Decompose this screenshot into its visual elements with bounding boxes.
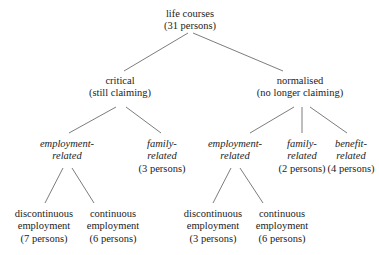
node-count: (3 persons) — [139, 163, 186, 175]
node-normalised-employment-related: employment- related — [208, 138, 262, 163]
root-node-life-courses: life courses (31 persons) — [164, 8, 216, 33]
edge-critical-to-crit-employment — [69, 107, 116, 133]
leaf-label-line2: employment — [15, 220, 73, 232]
node-critical-family-related: family- related (3 persons) — [139, 138, 186, 175]
node-label-line1: employment- — [40, 138, 94, 150]
leaf-count: (6 persons) — [256, 233, 309, 245]
node-critical-label: critical — [89, 75, 151, 87]
leaf-label-line1: discontinuous — [184, 208, 242, 220]
node-label-line2: related — [279, 150, 326, 162]
leaf-label-line2: employment — [87, 220, 140, 232]
edge-crit-employment-to-crit-cont — [72, 168, 94, 203]
node-label-line2: related — [40, 150, 94, 162]
edge-root-to-normalised — [193, 33, 283, 71]
leaf-count: (6 persons) — [87, 233, 140, 245]
node-normalised-family-related: family- related (2 persons) — [279, 138, 326, 175]
node-label-line2: related — [208, 150, 262, 162]
leaf-normalised-discontinuous-employment: discontinuous employment (3 persons) — [184, 208, 242, 245]
leaf-critical-continuous-employment: continuous employment (6 persons) — [87, 208, 140, 245]
node-normalised: normalised (no longer claiming) — [257, 75, 343, 100]
node-normalised-label: normalised — [257, 75, 343, 87]
node-count: (2 persons) — [279, 163, 326, 175]
edge-critical-to-crit-family — [126, 107, 161, 133]
edge-crit-employment-to-crit-discont — [45, 168, 63, 203]
node-critical-count: (still claiming) — [89, 87, 151, 99]
edge-normalised-to-norm-benefit — [310, 107, 347, 133]
edge-norm-employment-to-norm-cont — [240, 168, 263, 203]
node-critical: critical (still claiming) — [89, 75, 151, 100]
node-label-line2: related — [139, 150, 186, 162]
root-node-count: (31 persons) — [164, 20, 216, 32]
node-label-line2: related — [328, 150, 375, 162]
leaf-label-line1: discontinuous — [15, 208, 73, 220]
edge-root-to-critical — [124, 33, 188, 71]
node-label-line1: benefit- — [328, 138, 375, 150]
tree-diagram: life courses (31 persons) critical (stil… — [0, 0, 379, 255]
root-node-label: life courses — [164, 8, 216, 20]
leaf-critical-discontinuous-employment: discontinuous employment (7 persons) — [15, 208, 73, 245]
node-critical-employment-related: employment- related — [40, 138, 94, 163]
leaf-normalised-continuous-employment: continuous employment (6 persons) — [256, 208, 309, 245]
leaf-label-line1: continuous — [256, 208, 309, 220]
leaf-count: (3 persons) — [184, 233, 242, 245]
edge-norm-employment-to-norm-discont — [213, 168, 231, 203]
edge-normalised-to-norm-employment — [250, 107, 294, 133]
leaf-label-line1: continuous — [87, 208, 140, 220]
node-normalised-count: (no longer claiming) — [257, 87, 343, 99]
node-label-line1: employment- — [208, 138, 262, 150]
node-normalised-benefit-related: benefit- related (4 persons) — [328, 138, 375, 175]
leaf-label-line2: employment — [256, 220, 309, 232]
leaf-label-line2: employment — [184, 220, 242, 232]
node-count: (4 persons) — [328, 163, 375, 175]
leaf-count: (7 persons) — [15, 233, 73, 245]
node-label-line1: family- — [139, 138, 186, 150]
node-label-line1: family- — [279, 138, 326, 150]
